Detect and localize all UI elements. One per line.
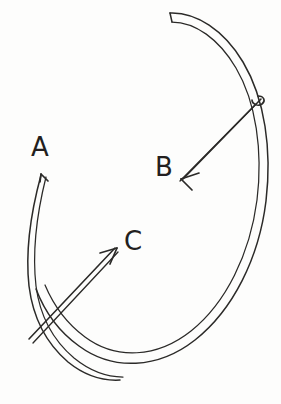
vector-b-arrowhead-barb-upper bbox=[181, 173, 199, 179]
label-c: C bbox=[124, 228, 143, 254]
vector-b bbox=[180, 96, 264, 190]
small-band-outer-stroke bbox=[28, 175, 120, 380]
large-curved-band bbox=[36, 13, 268, 363]
vector-a bbox=[40, 174, 48, 182]
vector-a-arrowhead-barb-right bbox=[41, 174, 48, 181]
large-band-outer-stroke bbox=[36, 13, 268, 363]
vector-a-arrowhead-barb-left bbox=[40, 174, 41, 182]
figure-canvas: A B C bbox=[0, 0, 281, 404]
large-band-inner-stroke bbox=[45, 22, 259, 353]
label-a: A bbox=[31, 134, 49, 160]
diagram-svg bbox=[0, 0, 281, 404]
small-band-inner-stroke bbox=[35, 177, 123, 377]
vector-b-shaft-inner bbox=[180, 104, 256, 181]
large-band-blunt-end-cap bbox=[170, 13, 172, 22]
label-b: B bbox=[155, 154, 173, 180]
vector-b-arrowhead-barb-lower bbox=[181, 179, 192, 190]
